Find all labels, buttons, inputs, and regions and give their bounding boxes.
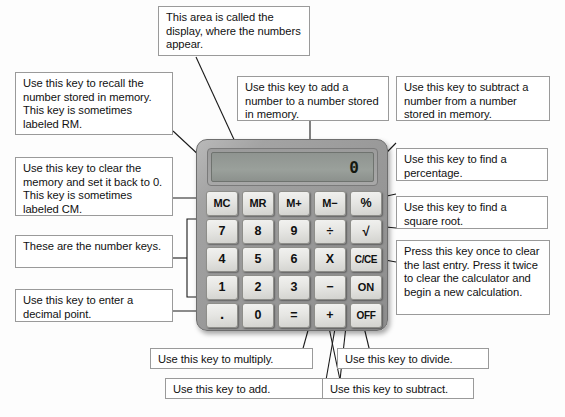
callout-subtract: Use this key to subtract. (322, 378, 474, 399)
key-divide[interactable]: ÷ (314, 219, 346, 244)
callout-memory-subtract-text: Use this key to subtract a number from a… (404, 81, 528, 120)
callout-divide-text: Use this key to divide. (345, 353, 453, 365)
callout-memory-subtract: Use this key to subtract a number from a… (396, 76, 550, 121)
key-2[interactable]: 2 (242, 275, 274, 300)
key-7[interactable]: 7 (206, 219, 238, 244)
callout-display: This area is called the display, where t… (158, 6, 310, 56)
key-9[interactable]: 9 (278, 219, 310, 244)
callout-percent-text: Use this key to find a percentage. (404, 153, 507, 179)
callout-number-keys: These are the number keys. (15, 235, 173, 268)
callout-memory-add-text: Use this key to add a number to a number… (245, 81, 379, 120)
key-equals[interactable]: = (278, 303, 310, 328)
callout-number-keys-text: These are the number keys. (23, 240, 161, 252)
key-8[interactable]: 8 (242, 219, 274, 244)
key-square-root[interactable]: √ (350, 219, 382, 244)
calculator-keypad[interactable]: MCMRM+M−%789÷√456XC/CE123−ON.0=+OFF (206, 191, 382, 328)
callout-add-text: Use this key to add. (173, 383, 270, 395)
callout-square-root: Use this key to find a square root. (396, 196, 548, 229)
callout-decimal-point-text: Use this key to enter a decimal point. (23, 294, 133, 320)
callout-subtract-text: Use this key to subtract. (330, 383, 448, 395)
key-1[interactable]: 1 (206, 275, 238, 300)
key-5[interactable]: 5 (242, 247, 274, 272)
diagram-canvas: This area is called the display, where t… (0, 0, 565, 417)
key-memory-add[interactable]: M+ (278, 191, 310, 216)
callout-decimal-point: Use this key to enter a decimal point. (15, 289, 173, 322)
callout-add: Use this key to add. (165, 378, 328, 399)
callout-memory-recall-text: Use this key to recall the number stored… (23, 77, 152, 130)
callout-display-text: This area is called the display, where t… (166, 11, 301, 50)
key-memory-subtract[interactable]: M− (314, 191, 346, 216)
key-clear-entry[interactable]: C/CE (350, 247, 382, 272)
key-on[interactable]: ON (350, 275, 382, 300)
key-3[interactable]: 3 (278, 275, 310, 300)
key-memory-recall[interactable]: MR (242, 191, 274, 216)
callout-memory-clear: Use this key to clear the memory and set… (15, 157, 173, 216)
callout-percent: Use this key to find a percentage. (396, 148, 548, 181)
display-value: 0 (349, 158, 359, 177)
callout-square-root-text: Use this key to find a square root. (404, 201, 507, 227)
callout-multiply-text: Use this key to multiply. (158, 353, 273, 365)
key-percent[interactable]: % (350, 191, 382, 216)
callout-clear-entry-text: Press this key once to clear the last en… (404, 245, 539, 298)
key-decimal-point[interactable]: . (206, 303, 238, 328)
callout-multiply: Use this key to multiply. (150, 348, 313, 369)
callout-clear-entry: Press this key once to clear the last en… (396, 240, 550, 315)
key-add[interactable]: + (314, 303, 346, 328)
key-6[interactable]: 6 (278, 247, 310, 272)
callout-divide: Use this key to divide. (337, 348, 489, 369)
display-bezel: 0 (207, 148, 378, 186)
callout-memory-recall: Use this key to recall the number stored… (15, 72, 173, 135)
key-0[interactable]: 0 (242, 303, 274, 328)
key-multiply[interactable]: X (314, 247, 346, 272)
calculator-body: 0 MCMRM+M−%789÷√456XC/CE123−ON.0=+OFF (196, 139, 388, 331)
key-memory-clear[interactable]: MC (206, 191, 238, 216)
calculator-display: 0 (211, 152, 374, 182)
key-4[interactable]: 4 (206, 247, 238, 272)
key-subtract[interactable]: − (314, 275, 346, 300)
key-off[interactable]: OFF (350, 303, 382, 328)
callout-memory-clear-text: Use this key to clear the memory and set… (23, 162, 162, 215)
callout-memory-add: Use this key to add a number to a number… (237, 76, 389, 121)
